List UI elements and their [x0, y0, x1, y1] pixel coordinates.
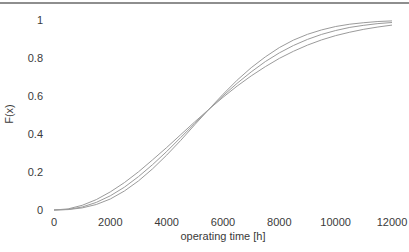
series-line-cdf-shallow [54, 25, 392, 210]
series-line-cdf-steep [54, 21, 392, 210]
x-tick-label: 10000 [320, 215, 351, 229]
y-axis-title: F(x) [3, 94, 15, 134]
y-tick-label: 0.2 [0, 165, 43, 179]
x-tick-label: 12000 [377, 215, 408, 229]
x-tick-label: 4000 [154, 215, 178, 229]
figure: 00.20.40.60.81 0200040006000800010000120… [0, 0, 409, 252]
x-tick-label: 0 [51, 215, 57, 229]
x-axis-title: operating time [h] [181, 230, 266, 242]
y-tick-label: 1 [0, 13, 43, 27]
x-tick-label: 2000 [98, 215, 122, 229]
x-tick-label: 6000 [211, 215, 235, 229]
x-tick-label: 8000 [267, 215, 291, 229]
y-tick-label: 0.8 [0, 51, 43, 65]
series-line-cdf-middle [54, 23, 392, 211]
y-tick-label: 0 [0, 203, 43, 217]
